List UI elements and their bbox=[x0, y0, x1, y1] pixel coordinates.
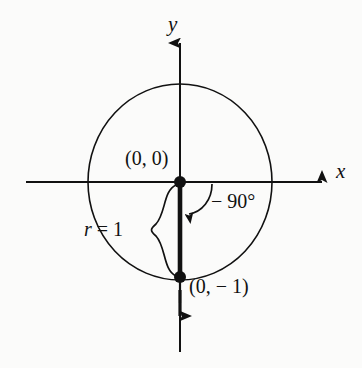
figure-canvas bbox=[0, 0, 362, 368]
radius-label: r = 1 bbox=[84, 219, 123, 239]
angle-measure-label: − 90° bbox=[211, 191, 255, 211]
radius-equals: = bbox=[92, 218, 113, 240]
terminal-point-dot bbox=[174, 271, 186, 283]
terminal-coordinate-label: (0, − 1) bbox=[189, 276, 249, 296]
y-axis-label: y bbox=[168, 14, 177, 35]
radius-variable: r bbox=[84, 218, 92, 240]
x-axis-label: x bbox=[336, 161, 345, 182]
radius-value: 1 bbox=[113, 218, 123, 240]
unit-circle-figure: y x (0, 0) − 90° r = 1 (0, − 1) bbox=[0, 0, 362, 368]
origin-coordinate-label: (0, 0) bbox=[125, 148, 168, 168]
angle-arc bbox=[189, 184, 212, 214]
radius-brace bbox=[152, 185, 177, 276]
origin-point-dot bbox=[174, 176, 186, 188]
